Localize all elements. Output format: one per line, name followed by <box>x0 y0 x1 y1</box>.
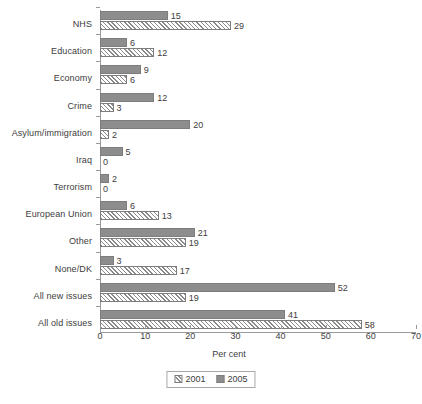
bar-2005 <box>100 283 335 292</box>
x-axis-tick-label: 50 <box>321 331 331 341</box>
category-label: None/DK <box>0 264 92 274</box>
bar-2005 <box>100 93 154 102</box>
bar-value-label: 2 <box>112 175 117 184</box>
y-axis-tick <box>96 116 100 117</box>
bar-value-label: 29 <box>234 22 244 31</box>
bar-2005 <box>100 11 168 20</box>
category-label: Education <box>0 46 92 56</box>
y-axis-tick <box>96 89 100 90</box>
x-axis-tick-mark <box>371 325 372 329</box>
x-axis-title: Per cent <box>0 349 422 359</box>
bar-2005 <box>100 65 141 74</box>
legend-label-2005: 2005 <box>228 374 248 384</box>
bar-value-label: 19 <box>189 294 199 303</box>
x-axis-ticks: 010203040506070 <box>100 325 422 345</box>
category-label: European Union <box>0 209 92 219</box>
category-label: Other <box>0 236 92 246</box>
bar-value-label: 20 <box>193 121 203 130</box>
x-axis-tick-label: 10 <box>140 331 150 341</box>
bar-chart: NHSEducationEconomyCrimeAsylum/immigrati… <box>0 0 422 404</box>
y-axis-tick <box>96 279 100 280</box>
legend-item-2001: 2001 <box>174 374 205 384</box>
bar-2005 <box>100 201 127 210</box>
bar-2005 <box>100 147 123 156</box>
bar-2005 <box>100 256 114 265</box>
bar-2001 <box>100 211 159 220</box>
bar-2005 <box>100 174 109 183</box>
x-axis-tick-mark <box>281 325 282 329</box>
y-axis-tick <box>96 61 100 62</box>
bar-value-label: 6 <box>130 39 135 48</box>
y-axis-tick <box>96 170 100 171</box>
category-label: Asylum/immigration <box>0 128 92 138</box>
bar-value-label: 52 <box>338 284 348 293</box>
bar-value-label: 13 <box>162 212 172 221</box>
x-axis-tick-mark <box>326 325 327 329</box>
bar-2001 <box>100 130 109 139</box>
bar-2001 <box>100 103 114 112</box>
x-axis-tick-label: 20 <box>185 331 195 341</box>
x-axis-tick-label: 30 <box>230 331 240 341</box>
bar-value-label: 15 <box>171 12 181 21</box>
plot-area: NHSEducationEconomyCrimeAsylum/immigrati… <box>0 8 422 333</box>
x-axis-tick-label: 60 <box>366 331 376 341</box>
y-axis-tick <box>96 252 100 253</box>
category-label: Iraq <box>0 155 92 165</box>
x-axis-tick-label: 0 <box>97 331 102 341</box>
bar-value-label: 6 <box>130 202 135 211</box>
bar-value-label: 9 <box>144 66 149 75</box>
x-axis-tick-label: 70 <box>411 331 421 341</box>
bar-value-label: 0 <box>103 185 108 194</box>
y-axis-tick <box>96 143 100 144</box>
x-axis-tick-mark <box>190 325 191 329</box>
bar-2005 <box>100 310 285 319</box>
bar-value-label: 3 <box>117 257 122 266</box>
category-label: All old issues <box>0 318 92 328</box>
category-axis-labels: NHSEducationEconomyCrimeAsylum/immigrati… <box>0 8 96 333</box>
y-axis-tick <box>96 306 100 307</box>
bar-value-label: 3 <box>117 104 122 113</box>
chart-legend: 2001 2005 <box>166 371 255 388</box>
bar-value-label: 21 <box>198 229 208 238</box>
legend-swatch-2001-icon <box>174 375 182 383</box>
legend-label-2001: 2001 <box>185 374 205 384</box>
y-axis-tick <box>96 7 100 8</box>
bars-layer: 1529612961232025020613211931752194158 <box>100 8 422 333</box>
x-axis-tick-mark <box>145 325 146 329</box>
x-axis-tick-mark <box>235 325 236 329</box>
bar-value-label: 5 <box>126 148 131 157</box>
category-label: NHS <box>0 19 92 29</box>
category-label: Crime <box>0 101 92 111</box>
bar-value-label: 12 <box>157 94 167 103</box>
x-axis-tick-mark <box>100 325 101 329</box>
bar-value-label: 41 <box>288 311 298 320</box>
bar-value-label: 6 <box>130 76 135 85</box>
legend-swatch-2005-icon <box>217 375 225 383</box>
bar-2001 <box>100 266 177 275</box>
bar-2001 <box>100 21 231 30</box>
bar-value-label: 12 <box>157 49 167 58</box>
y-axis-tick <box>96 224 100 225</box>
bar-value-label: 19 <box>189 239 199 248</box>
bar-value-label: 17 <box>180 267 190 276</box>
bar-2005 <box>100 120 190 129</box>
category-label: Terrorism <box>0 182 92 192</box>
x-axis-tick-mark <box>416 325 417 329</box>
bar-2001 <box>100 293 186 302</box>
category-label: Economy <box>0 73 92 83</box>
bar-2001 <box>100 48 154 57</box>
legend-item-2005: 2005 <box>217 374 248 384</box>
y-axis-tick <box>96 197 100 198</box>
y-axis-tick <box>96 34 100 35</box>
bar-2001 <box>100 75 127 84</box>
bar-2005 <box>100 228 195 237</box>
bar-2005 <box>100 38 127 47</box>
bar-value-label: 2 <box>112 131 117 140</box>
bar-value-label: 0 <box>103 158 108 167</box>
x-axis-tick-label: 40 <box>276 331 286 341</box>
bar-2001 <box>100 238 186 247</box>
category-label: All new issues <box>0 291 92 301</box>
